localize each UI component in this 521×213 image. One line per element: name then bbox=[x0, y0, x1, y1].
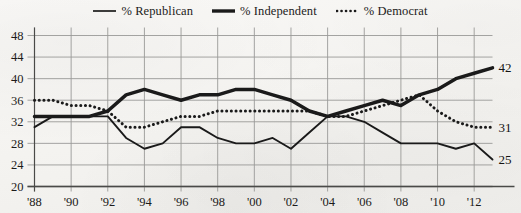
x-tick-label-2000: '00 bbox=[247, 195, 262, 209]
x-tick-label-2010: '10 bbox=[430, 195, 445, 209]
y-tick-label-28: 28 bbox=[11, 137, 24, 151]
y-tick-label-32: 32 bbox=[11, 115, 24, 129]
x-tick-label-2008: '08 bbox=[394, 195, 409, 209]
x-tick-label-2004: '04 bbox=[320, 195, 336, 209]
series-lines bbox=[35, 68, 493, 160]
y-axis-tick-labels: 2024283236404448 bbox=[11, 29, 24, 194]
x-tick-label-1990: '90 bbox=[64, 195, 79, 209]
y-tick-label-20: 20 bbox=[11, 180, 24, 194]
series-line-democrat bbox=[35, 95, 493, 127]
y-tick-label-40: 40 bbox=[11, 72, 24, 86]
y-tick-label-44: 44 bbox=[11, 50, 24, 64]
x-tick-label-1994: '94 bbox=[137, 195, 153, 209]
y-tick-label-48: 48 bbox=[11, 29, 24, 43]
y-tick-label-36: 36 bbox=[11, 94, 24, 108]
x-tick-label-1988: '88 bbox=[27, 195, 42, 209]
chart-screenshot: % Republican % Independent % Democrat 20… bbox=[0, 0, 521, 213]
axis-lines bbox=[28, 28, 515, 192]
gridlines-vertical bbox=[35, 28, 475, 192]
end-value-labels: 254231 bbox=[499, 60, 512, 167]
x-tick-label-2002: '02 bbox=[284, 195, 299, 209]
x-tick-label-1996: '96 bbox=[174, 195, 189, 209]
end-label-republican: 25 bbox=[499, 152, 512, 167]
end-label-democrat: 31 bbox=[499, 120, 512, 135]
x-tick-label-1992: '92 bbox=[100, 195, 115, 209]
chart-plot: 2024283236404448 '88'90'92'94'96'98'00'0… bbox=[0, 0, 521, 213]
series-line-republican bbox=[35, 116, 493, 159]
x-tick-label-2006: '06 bbox=[357, 195, 372, 209]
end-label-independent: 42 bbox=[499, 60, 512, 75]
x-tick-label-1998: '98 bbox=[210, 195, 225, 209]
x-axis-tick-labels: '88'90'92'94'96'98'00'02'04'06'08'10'12 bbox=[27, 195, 481, 209]
y-tick-label-24: 24 bbox=[11, 158, 24, 172]
x-tick-label-2012: '12 bbox=[467, 195, 482, 209]
